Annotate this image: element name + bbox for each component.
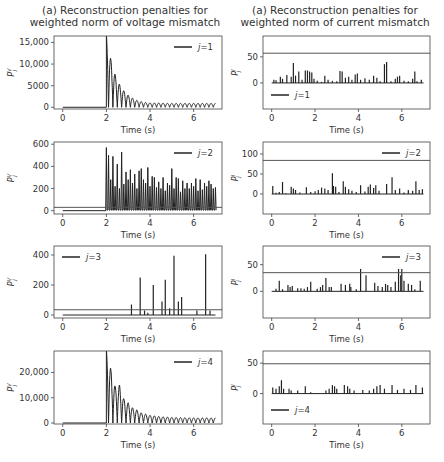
plot-area [263, 269, 430, 291]
y-tick-label: 5000 [27, 81, 49, 91]
x-tick-label: 6 [191, 218, 196, 228]
x-tick-label: 0 [269, 428, 274, 438]
x-tick-label: 2 [312, 113, 317, 123]
x-tick-label: 4 [147, 322, 152, 332]
x-tick-label: 2 [312, 218, 317, 228]
legend: j=2 [382, 148, 421, 158]
y-tick-label: 0 [253, 189, 258, 199]
y-axis-label: PVj [6, 382, 18, 392]
panel-voltage-j-1: 02460500010,00015,000Time (s)PVjj=1 [6, 36, 222, 135]
plot-area [54, 254, 222, 315]
plot-area [263, 160, 430, 194]
x-tick-label: 6 [399, 322, 404, 332]
x-axis-label: Time (s) [120, 440, 156, 450]
legend-label: j=1 [294, 90, 310, 100]
y-tick-label: 600 [33, 139, 49, 149]
axes-frame [263, 246, 430, 318]
x-tick-label: 6 [399, 113, 404, 123]
x-tick-label: 2 [104, 322, 109, 332]
panel-voltage-j-2: 02460200400600Time (s)PVjj=2 [6, 139, 222, 240]
x-tick-label: 6 [191, 113, 196, 123]
axes-frame [263, 351, 430, 424]
x-tick-label: 4 [356, 113, 361, 123]
x-tick-label: 2 [312, 322, 317, 332]
y-tick-label: 200 [33, 280, 49, 290]
legend-label: j=4 [197, 357, 213, 367]
plot-area [263, 364, 430, 394]
panel-current-j-3: 0246050Time (s)PIjj=3 [230, 246, 430, 344]
panel-current-j-1: 0246050Time (s)PIjj=1 [230, 36, 430, 135]
legend: j=2 [174, 148, 213, 158]
x-tick-label: 0 [269, 322, 274, 332]
x-tick-label: 2 [104, 218, 109, 228]
x-tick-label: 4 [147, 428, 152, 438]
axes-frame [263, 36, 430, 109]
axes-frame [263, 142, 430, 214]
x-tick-label: 4 [147, 113, 152, 123]
x-axis-label: Time (s) [328, 440, 364, 450]
y-tick-label: 0 [253, 286, 258, 296]
y-axis-label: PIj [230, 174, 242, 181]
x-axis-label: Time (s) [328, 230, 364, 240]
panel-current-j-4: 0246050Time (s)PIjj=4 [230, 351, 430, 450]
y-tick-label: 0 [44, 418, 49, 428]
plot-area [63, 351, 216, 423]
y-tick-label: 50 [247, 169, 258, 179]
x-axis-label: Time (s) [328, 334, 364, 344]
y-tick-label: 50 [247, 358, 258, 368]
y-tick-label: 10,000 [19, 393, 49, 403]
x-tick-label: 4 [147, 218, 152, 228]
axes-frame [54, 36, 222, 109]
x-tick-label: 0 [60, 322, 65, 332]
legend: j=4 [174, 357, 213, 367]
panel-voltage-j-4: 0246010,00020,000Time (s)PVjj=4 [6, 351, 222, 450]
x-tick-label: 4 [356, 322, 361, 332]
y-tick-label: 50 [247, 260, 258, 270]
legend-label: j=2 [197, 148, 213, 158]
y-tick-label: 0 [44, 310, 49, 320]
y-tick-label: 15,000 [19, 37, 49, 47]
x-tick-label: 0 [269, 113, 274, 123]
x-tick-label: 6 [399, 428, 404, 438]
y-axis-label: PVj [6, 276, 18, 286]
y-tick-label: 200 [33, 184, 49, 194]
x-tick-label: 0 [60, 218, 65, 228]
x-axis-label: Time (s) [120, 334, 156, 344]
legend-label: j=1 [197, 42, 213, 52]
x-axis-label: Time (s) [120, 125, 156, 135]
legend: j=3 [62, 252, 101, 262]
y-axis-label: PIj [230, 69, 242, 76]
y-tick-label: 0 [253, 78, 258, 88]
y-tick-label: 10,000 [19, 59, 49, 69]
x-tick-label: 2 [312, 428, 317, 438]
legend-label: j=3 [85, 252, 101, 262]
y-tick-label: 0 [44, 206, 49, 216]
legend: j=1 [174, 42, 213, 52]
legend: j=1 [271, 90, 310, 100]
y-tick-label: 0 [44, 102, 49, 112]
x-tick-label: 0 [269, 218, 274, 228]
plot-area [63, 36, 216, 107]
x-tick-label: 4 [356, 428, 361, 438]
legend-label: j=3 [405, 252, 421, 262]
y-axis-label: PVj [6, 172, 18, 182]
x-tick-label: 4 [356, 218, 361, 228]
y-axis-label: PIj [230, 278, 242, 285]
plot-area [263, 53, 430, 83]
y-tick-label: 50 [247, 52, 258, 62]
x-tick-label: 6 [191, 428, 196, 438]
figure-grid: 02460500010,00015,000Time (s)PVjj=102460… [0, 0, 444, 462]
y-tick-label: 400 [33, 161, 49, 171]
y-tick-label: 100 [242, 149, 258, 159]
y-axis-label: PIj [230, 384, 242, 391]
y-tick-label: 20,000 [19, 367, 49, 377]
legend: j=3 [382, 252, 421, 262]
y-tick-label: 400 [33, 250, 49, 260]
x-tick-label: 0 [60, 428, 65, 438]
legend: j=4 [271, 405, 310, 415]
x-tick-label: 6 [399, 218, 404, 228]
y-axis-label: PVj [6, 67, 18, 77]
y-tick-label: 0 [253, 389, 258, 399]
x-tick-label: 2 [104, 428, 109, 438]
x-tick-label: 2 [104, 113, 109, 123]
